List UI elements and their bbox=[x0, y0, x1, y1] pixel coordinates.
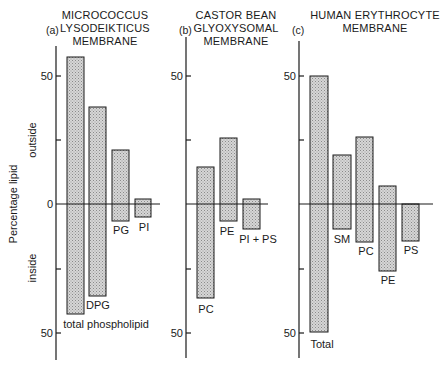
label-total-phospholipid: total phospholipid bbox=[63, 318, 149, 330]
outside-label: outside bbox=[26, 122, 38, 157]
label-pi-ps-castor: PI + PS bbox=[239, 233, 277, 245]
panel-a: (a) MICROCOCCUS LYSODEIKTICUS MEMBRANE 5… bbox=[41, 9, 160, 360]
panel-c-letter: (c) bbox=[292, 24, 304, 36]
bar-total-phospholipid bbox=[67, 57, 84, 314]
panel-a-tick-0: 0 bbox=[47, 198, 53, 210]
panel-c-title-line2: MEMBRANE bbox=[342, 22, 407, 34]
bar-pi bbox=[135, 199, 151, 217]
bar-ps bbox=[402, 204, 419, 241]
label-ps: PS bbox=[404, 244, 419, 256]
label-pi: PI bbox=[139, 221, 149, 233]
label-pe-castor: PE bbox=[220, 225, 235, 237]
label-dpg: DPG bbox=[86, 299, 110, 311]
figure-canvas: Percentage lipid outside inside (a) MICR… bbox=[0, 0, 445, 371]
panel-a-title-line1: MICROCOCCUS bbox=[62, 9, 149, 21]
panel-c-tick-50-outside: 50 bbox=[284, 70, 296, 82]
panel-a-letter: (a) bbox=[46, 24, 59, 36]
bar-pc-castor bbox=[197, 167, 214, 298]
bar-sm bbox=[333, 155, 351, 229]
panel-c-tick-50-inside: 50 bbox=[284, 327, 296, 339]
label-total-erythrocyte: Total bbox=[310, 338, 333, 350]
panel-a-tick-50-outside: 50 bbox=[41, 70, 53, 82]
panel-b-tick-50-inside: 50 bbox=[171, 327, 183, 339]
panel-b-title-line3: MEMBRANE bbox=[203, 35, 268, 47]
panel-c: (c) HUMAN ERYTHROCYTE MEMBRANE 50 50 Tot… bbox=[284, 9, 440, 358]
bar-pc-erythrocyte bbox=[356, 137, 373, 242]
bar-pg bbox=[112, 150, 129, 221]
label-pe-erythrocyte: PE bbox=[381, 274, 396, 286]
panel-b-letter: (b) bbox=[179, 24, 192, 36]
bar-dpg bbox=[89, 107, 106, 296]
panel-b-title-line1: CASTOR BEAN bbox=[196, 9, 277, 21]
bar-pe-erythrocyte bbox=[379, 186, 396, 271]
y-axis-title: Percentage lipid bbox=[7, 165, 19, 244]
panel-a-title-line2: LYSODEIKTICUS bbox=[60, 22, 150, 34]
panel-b: (b) CASTOR BEAN GLYOXYSOMAL MEMBRANE 50 … bbox=[171, 9, 279, 358]
panel-b-title-line2: GLYOXYSOMAL bbox=[193, 22, 278, 34]
label-sm: SM bbox=[334, 233, 351, 245]
inside-label: inside bbox=[26, 254, 38, 283]
y-axis-labels: Percentage lipid outside inside bbox=[7, 122, 38, 282]
panel-c-title-line1: HUMAN ERYTHROCYTE bbox=[310, 9, 440, 21]
label-pc-castor: PC bbox=[198, 303, 213, 315]
label-pg: PG bbox=[113, 224, 129, 236]
panel-b-tick-50-outside: 50 bbox=[171, 70, 183, 82]
bar-pe-castor bbox=[220, 138, 237, 221]
panel-a-title-line3: MEMBRANE bbox=[72, 35, 137, 47]
panel-a-tick-50-inside: 50 bbox=[41, 327, 53, 339]
label-pc-erythrocyte: PC bbox=[358, 245, 373, 257]
